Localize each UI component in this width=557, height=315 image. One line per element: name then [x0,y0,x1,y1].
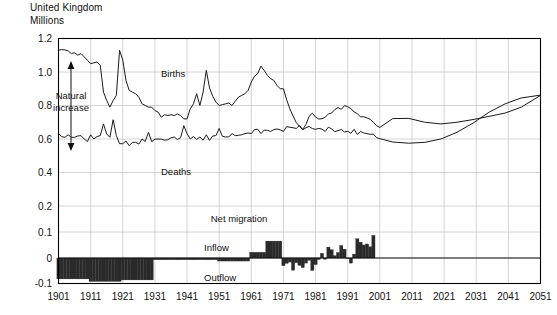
net-migration-bar [131,258,134,280]
net-migration-bar [147,258,150,280]
net-migration-bar [336,253,339,258]
net-migration-bar [372,235,375,258]
x-tick-label: 1941 [176,291,199,302]
series-line-births [59,50,541,130]
x-tick-label: 1911 [80,291,102,302]
x-tick-label: 1921 [112,291,135,302]
net-migration-bar [134,258,137,280]
net-migration-bar [102,258,105,281]
net-migration-bar [304,258,307,263]
net-migration-bar [320,253,323,258]
net-migration-bar [108,258,111,281]
net-migration-bar [60,258,63,279]
chart-plot-area: -0.100.10.20.40.60.81.01.2 1901191119211… [0,0,557,315]
x-tick-label: 1961 [240,291,263,302]
net-migration-bar [124,258,127,280]
x-tick-label: 1981 [304,291,327,302]
births-label: Births [161,68,186,79]
net-migration-bar [275,241,278,258]
natural-increase-label-line1: Natural [56,90,87,101]
population-components-chart: -0.100.10.20.40.60.81.01.2 1901191119211… [0,0,557,315]
net-migration-bar [63,258,66,279]
net-migration-bar [279,241,282,258]
net-migration-bar [121,258,124,280]
x-tick-label: 2041 [497,291,520,302]
net-migration-bar [285,258,288,263]
x-tick-label: 1951 [208,291,231,302]
net-migration-bar [83,258,86,279]
net-migration-bars [57,235,541,281]
x-tick-label: 2011 [401,291,423,302]
x-tick-label: 1971 [272,291,295,302]
y-tick-label: 0.2 [38,201,52,212]
net-migration-bar [369,247,372,258]
net-migration-bar [327,247,330,258]
y-tick-label: 0.1 [38,227,52,238]
x-tick-label: 2021 [433,291,456,302]
y-tick-label: 0.4 [38,167,52,178]
net-migration-bar [256,252,259,258]
net-migration-bar [266,241,269,258]
y-tick-label: 0.6 [38,134,52,145]
net-migration-bar [362,245,365,258]
net-migration-bar [67,258,70,279]
net-migration-bar [272,241,275,258]
net-migration-bar [330,250,333,258]
net-migration-bar [99,258,102,281]
y-tick-label: 0.8 [38,100,52,111]
net-migration-bar [76,258,79,279]
x-tick-label: 2001 [369,291,392,302]
net-migration-bar [365,244,368,258]
net-migration-bar [105,258,108,281]
net-migration-bar [112,258,115,281]
net-migration-bar [79,258,82,279]
y-axis-tick-labels: -0.100.10.20.40.60.81.01.2 [35,33,53,289]
net-migration-label: Net migration [211,213,268,224]
net-migration-bar [73,258,76,279]
net-migration-bar [340,246,343,258]
x-tick-label: 1991 [337,291,360,302]
net-migration-bar [311,258,314,270]
net-migration-bar [89,258,92,281]
net-migration-bar [128,258,131,280]
net-migration-bar [95,258,98,281]
net-migration-bar [343,249,346,258]
x-tick-label: 2031 [465,291,488,302]
natural-increase-label-line2: increase [53,102,89,113]
plot-frame [59,39,541,284]
net-migration-bar [295,258,298,263]
net-migration-bar [70,258,73,279]
x-tick-label: 2051 [529,291,552,302]
y-tick-label: 1.2 [38,33,52,44]
net-migration-bar [250,252,253,258]
gridlines [59,39,541,284]
net-migration-bar [269,241,272,258]
net-migration-bar [282,258,285,266]
net-migration-bar [150,258,153,280]
x-axis-tick-labels: 1901191119211931194119511961197119811991… [47,291,552,302]
net-migration-bar [263,252,266,258]
y-tick-label: -0.1 [35,278,53,289]
net-migration-bar [118,258,121,281]
net-migration-bar [259,252,262,258]
y-tick-label: 0 [46,253,52,264]
net-migration-bar [298,258,301,265]
net-migration-bar [137,258,140,280]
net-migration-bar [144,258,147,280]
net-migration-bar [86,258,89,279]
x-tick-label: 1931 [144,291,167,302]
net-migration-bar [301,258,304,268]
net-migration-bar [140,258,143,280]
net-migration-bar [353,254,356,258]
outflow-label: Outflow [204,272,236,283]
net-migration-bar [92,258,95,281]
net-migration-bar [253,252,256,258]
net-migration-bar [291,258,294,270]
net-migration-bar [288,258,291,262]
deaths-label: Deaths [161,166,191,177]
inflow-label: Inflow [204,242,229,253]
y-tick-label: 1.0 [38,67,52,78]
net-migration-bar [314,258,317,265]
net-migration-bar [115,258,118,281]
series-lines [59,50,541,146]
